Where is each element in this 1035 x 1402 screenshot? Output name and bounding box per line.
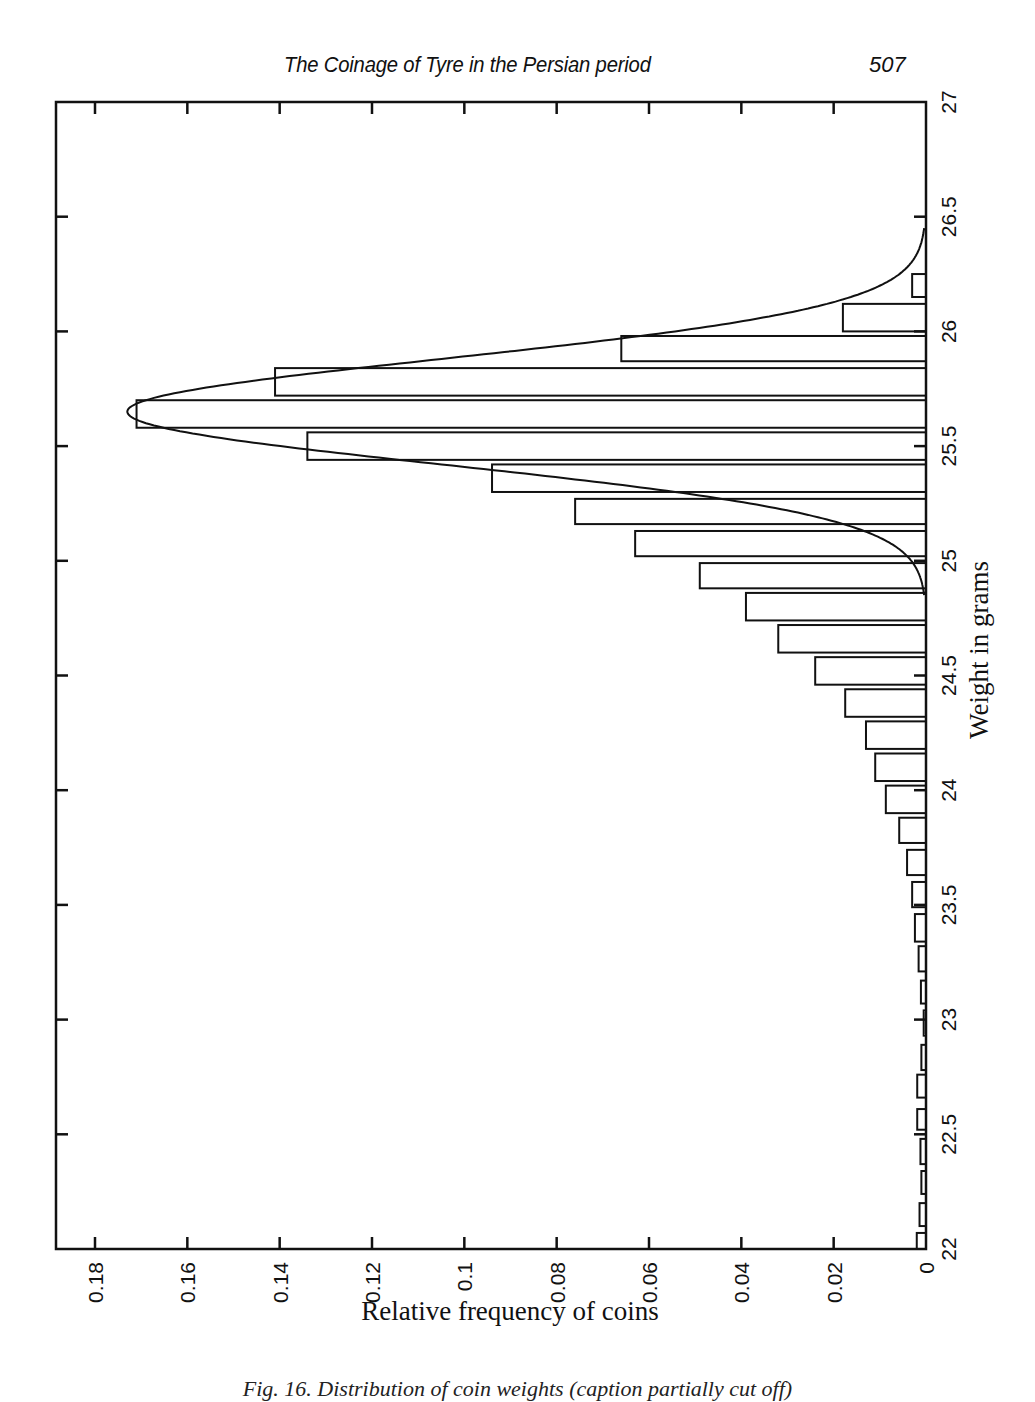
normal-fit-curve: [127, 228, 924, 595]
frequency-tick-label: 0.1: [453, 1262, 476, 1291]
histogram-bar: [917, 1075, 926, 1098]
histogram-bar: [621, 336, 926, 361]
frequency-tick-label: 0.02: [823, 1262, 846, 1303]
histogram-bar: [912, 882, 926, 907]
axis-ticks: [56, 102, 926, 1249]
weight-tick-label: 27: [937, 90, 960, 113]
weight-tick-label: 23: [937, 1008, 960, 1031]
frequency-tick-label: 0.16: [176, 1262, 199, 1303]
weight-tick-label: 22: [937, 1237, 960, 1260]
histogram-bar: [700, 563, 926, 588]
frequency-tick-label: 0.14: [269, 1262, 292, 1303]
weight-tick-label: 23.5: [937, 884, 960, 925]
histogram-bar: [912, 274, 926, 297]
weight-tick-label: 24: [937, 778, 960, 802]
histogram-bar: [137, 400, 926, 428]
histogram-bar: [746, 593, 926, 621]
histogram-bar: [917, 1109, 926, 1130]
weight-tick-label: 26.5: [937, 196, 960, 237]
frequency-axis-title: Relative frequency of coins: [361, 1296, 659, 1326]
axis-tick-labels: 2222.52323.52424.52525.52626.52700.020.0…: [84, 90, 960, 1303]
histogram-bar: [875, 753, 926, 781]
frequency-tick-label: 0.18: [84, 1262, 107, 1303]
histogram-bar: [845, 689, 926, 717]
weight-tick-label: 25: [937, 549, 960, 572]
histogram-bar: [915, 914, 926, 942]
histogram-bars: [137, 274, 926, 1249]
histogram-bar: [907, 850, 926, 875]
histogram-bar: [917, 1233, 926, 1249]
weight-tick-label: 25.5: [937, 426, 960, 467]
figure-caption: Fig. 16. Distribution of coin weights (c…: [0, 1376, 1035, 1402]
histogram-bar: [778, 625, 926, 653]
histogram-bar: [635, 531, 926, 556]
histogram-bar: [899, 818, 926, 843]
histogram-bar: [307, 432, 926, 460]
frequency-tick-label: 0.04: [730, 1262, 753, 1303]
histogram-bar: [275, 368, 926, 396]
frequency-tick-label: 0: [915, 1262, 938, 1274]
weight-axis-title: Weight in grams: [964, 561, 994, 739]
histogram-bar: [815, 657, 926, 685]
weight-tick-label: 24.5: [937, 655, 960, 696]
histogram-bar: [866, 721, 926, 749]
histogram-bar: [843, 304, 926, 332]
weight-tick-label: 22.5: [937, 1114, 960, 1155]
weight-tick-label: 26: [937, 320, 960, 343]
plot-frame: [56, 102, 926, 1249]
